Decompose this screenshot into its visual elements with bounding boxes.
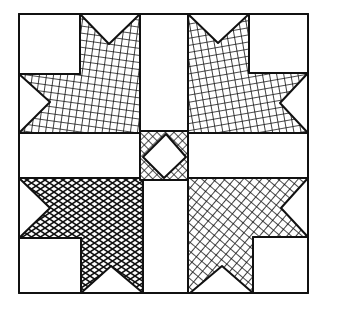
top-right-corner-square [249,14,308,73]
sashing-top [140,14,188,133]
sashing-left [19,133,140,178]
bottom-left-corner-square [19,238,81,293]
quilt-block-svg [0,0,343,309]
quilt-block-drawing [0,0,343,309]
sashing-bottom [143,180,188,293]
bottom-right-corner-square [253,237,308,293]
sashing-right [188,133,308,178]
top-left-corner-square [19,14,80,74]
